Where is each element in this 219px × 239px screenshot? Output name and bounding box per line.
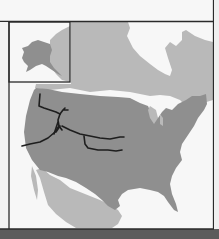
bottom-bar [0, 229, 219, 239]
map-figure [0, 0, 219, 239]
alaska-inset [9, 22, 70, 82]
right-margin [214, 0, 219, 239]
left-margin [0, 22, 8, 229]
